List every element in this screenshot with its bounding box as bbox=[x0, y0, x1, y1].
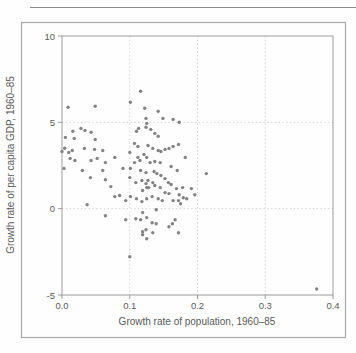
data-point bbox=[177, 231, 180, 234]
data-point bbox=[163, 191, 166, 194]
data-point bbox=[73, 159, 76, 162]
data-point bbox=[145, 237, 148, 240]
data-point bbox=[89, 131, 92, 134]
data-point bbox=[124, 199, 127, 202]
data-point bbox=[151, 147, 154, 150]
data-point bbox=[71, 130, 74, 133]
data-point bbox=[96, 157, 99, 160]
data-point bbox=[205, 172, 208, 175]
data-point bbox=[145, 186, 148, 189]
data-point bbox=[182, 196, 185, 199]
data-point bbox=[109, 185, 112, 188]
data-point bbox=[104, 161, 107, 164]
data-point bbox=[315, 287, 318, 290]
data-point bbox=[152, 170, 155, 173]
data-point bbox=[150, 195, 153, 198]
data-point bbox=[144, 171, 147, 174]
data-point bbox=[153, 184, 156, 187]
data-point bbox=[68, 157, 71, 160]
data-point bbox=[161, 199, 164, 202]
data-point bbox=[177, 143, 180, 146]
data-point bbox=[133, 142, 136, 145]
y-tick-label: 10 bbox=[44, 31, 55, 42]
data-point bbox=[146, 144, 149, 147]
data-point bbox=[141, 189, 144, 192]
data-point bbox=[184, 156, 187, 159]
data-point bbox=[159, 150, 162, 153]
data-point bbox=[145, 216, 148, 219]
data-point bbox=[157, 197, 160, 200]
data-point bbox=[89, 176, 92, 179]
data-point bbox=[155, 172, 158, 175]
data-point bbox=[167, 192, 170, 195]
data-point bbox=[141, 233, 144, 236]
data-point bbox=[81, 169, 84, 172]
data-point bbox=[139, 169, 142, 172]
y-tick-label: -5 bbox=[47, 290, 55, 301]
figure-page: 0.00.10.20.30.41050-5 Growth rate of pop… bbox=[0, 0, 356, 353]
data-point bbox=[151, 181, 154, 184]
data-point bbox=[129, 167, 132, 170]
data-point bbox=[155, 222, 158, 225]
data-point bbox=[171, 118, 174, 121]
x-tick-label: 0.4 bbox=[326, 300, 339, 311]
data-point bbox=[118, 194, 121, 197]
data-point bbox=[167, 147, 170, 150]
data-point bbox=[101, 169, 104, 172]
data-point bbox=[134, 217, 137, 220]
data-point bbox=[145, 197, 148, 200]
data-point bbox=[140, 179, 143, 182]
data-point bbox=[134, 181, 137, 184]
data-point bbox=[83, 147, 86, 150]
data-point bbox=[176, 169, 179, 172]
data-point bbox=[104, 178, 107, 181]
data-point bbox=[138, 159, 141, 162]
data-point bbox=[64, 136, 67, 139]
data-point bbox=[104, 214, 107, 217]
data-point bbox=[62, 167, 65, 170]
data-point bbox=[140, 200, 143, 203]
data-point bbox=[190, 187, 193, 190]
data-point bbox=[142, 153, 145, 156]
x-tick-label: 0.3 bbox=[259, 300, 272, 311]
data-point bbox=[163, 148, 166, 151]
y-axis-label: Growth rate of per capita GDP, 1960–85 bbox=[5, 76, 16, 254]
data-point bbox=[163, 177, 166, 180]
data-point bbox=[144, 126, 147, 129]
data-point bbox=[161, 117, 164, 120]
data-point bbox=[66, 106, 69, 109]
data-point bbox=[169, 183, 172, 186]
figure-border-box bbox=[22, 23, 346, 338]
data-point bbox=[146, 179, 149, 182]
data-point bbox=[136, 145, 139, 148]
data-point bbox=[167, 225, 170, 228]
data-point bbox=[121, 167, 124, 170]
data-point bbox=[149, 128, 152, 131]
x-tick-label: 0.2 bbox=[191, 300, 204, 311]
data-point bbox=[178, 121, 181, 124]
data-point bbox=[113, 156, 116, 159]
data-point bbox=[171, 199, 174, 202]
data-point bbox=[94, 138, 97, 141]
data-point bbox=[71, 149, 74, 152]
data-point bbox=[171, 222, 174, 225]
data-point bbox=[159, 161, 162, 164]
data-point bbox=[159, 174, 162, 177]
data-point bbox=[181, 186, 184, 189]
data-point bbox=[169, 165, 172, 168]
data-point bbox=[148, 161, 151, 164]
x-tick-label: 0.1 bbox=[123, 300, 136, 311]
data-point bbox=[73, 137, 76, 140]
data-point bbox=[150, 221, 153, 224]
data-point bbox=[153, 132, 156, 135]
data-point bbox=[151, 231, 154, 234]
y-tick-label: 0 bbox=[50, 203, 55, 214]
data-point bbox=[141, 230, 144, 233]
data-point bbox=[179, 202, 182, 205]
data-point bbox=[136, 156, 139, 159]
data-point bbox=[145, 122, 148, 125]
data-point bbox=[144, 117, 147, 120]
data-point bbox=[94, 105, 97, 108]
data-point bbox=[157, 110, 160, 113]
data-point bbox=[89, 159, 92, 162]
